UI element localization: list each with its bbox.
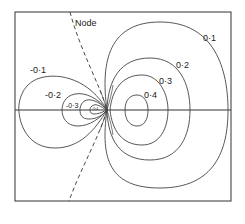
- label-positive-0.4: 0·4: [144, 90, 157, 100]
- label-positive-0.2: 0·2: [176, 60, 189, 70]
- plot-frame: [15, 12, 231, 201]
- negative-lobe-contours: [19, 76, 107, 148]
- positive-lobe-contours: [105, 22, 228, 188]
- label-negative-0.4: -0·4: [92, 107, 98, 111]
- label-positive-0.1: 0·1: [203, 33, 216, 43]
- label-positive-0.3: 0·3: [159, 76, 172, 86]
- label-negative-0.2: -0·2: [45, 90, 61, 100]
- label-negative-0.3: -0·3: [66, 102, 79, 109]
- contour-positive-0.1: [105, 22, 228, 188]
- label-negative-0.1: -0·1: [30, 65, 46, 75]
- node-label: Node: [75, 18, 97, 28]
- contour-negative-0.1: [19, 76, 107, 148]
- contour-diagram: Node 0·1 0·2 0·3 0·4 -0·1 -0·2 -0·3 -0·4: [0, 0, 245, 224]
- contour-positive-0.2: [107, 58, 190, 160]
